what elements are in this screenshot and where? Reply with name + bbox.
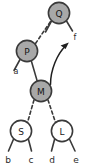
edge-m-s <box>28 100 35 123</box>
node-m-label: M <box>37 87 45 97</box>
leaf-label-c: c <box>29 155 34 165</box>
node-p[interactable]: P <box>16 40 37 61</box>
rotation-arrow <box>51 43 69 85</box>
stub-s-right <box>28 139 31 152</box>
edge-m-l <box>48 100 56 123</box>
node-s-label: S <box>18 127 24 137</box>
node-l[interactable]: L <box>51 120 72 141</box>
leaf-label-b: b <box>5 155 11 165</box>
rotation-arrow-head <box>61 43 69 49</box>
edge-p-m <box>32 62 38 81</box>
subtree-label-f: f <box>74 33 77 42</box>
leaf-label-d: d <box>49 155 55 165</box>
node-s[interactable]: S <box>10 120 31 141</box>
node-group: Q P M S L <box>10 2 72 141</box>
node-p-label: P <box>24 47 30 57</box>
rotation-arrow-path <box>51 46 67 85</box>
stub-q-right <box>67 21 73 31</box>
node-q-label: Q <box>55 9 62 19</box>
tree-diagram: Q P M S L a <box>0 0 90 167</box>
stub-l-right <box>69 139 75 152</box>
node-l-label: L <box>59 127 64 137</box>
subtree-label-a: a <box>14 67 19 76</box>
node-q[interactable]: Q <box>48 2 69 23</box>
node-m[interactable]: M <box>30 80 51 101</box>
edge-p-q <box>36 22 51 44</box>
tree-diagram-canvas: Q P M S L a <box>0 0 90 167</box>
stub-s-left <box>9 139 14 152</box>
stub-l-left <box>52 139 55 152</box>
leaf-label-e: e <box>73 155 79 165</box>
